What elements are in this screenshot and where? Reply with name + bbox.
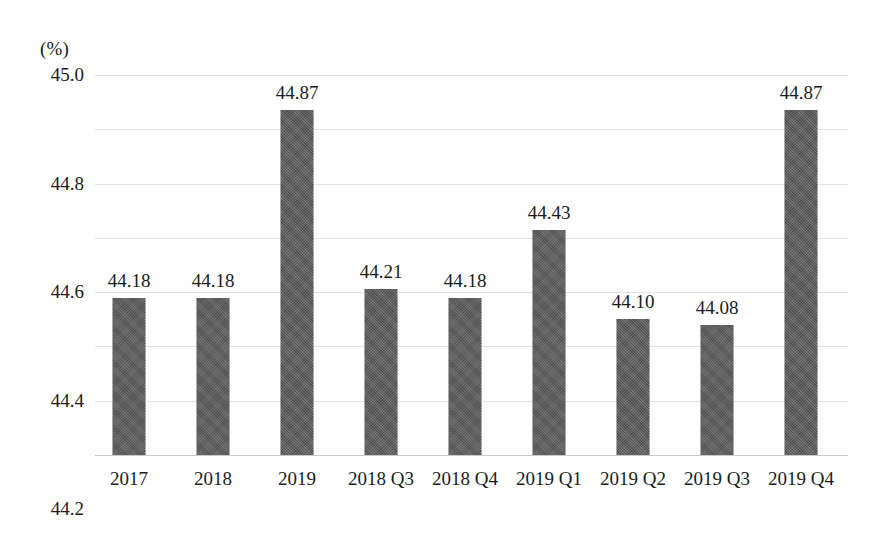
- x-axis-category-label: 2019 Q2: [600, 468, 666, 490]
- y-axis-tick-label: 44.6: [51, 281, 84, 303]
- x-axis-category-label: 2018 Q3: [348, 468, 414, 490]
- bar[interactable]: [701, 325, 734, 455]
- plot-area: 45.044.844.644.444.244.043.843.6 44.1820…: [95, 75, 848, 455]
- bar[interactable]: [113, 298, 146, 455]
- bar[interactable]: [785, 110, 818, 455]
- bar-group[interactable]: 44.212018 Q3: [339, 75, 423, 455]
- bar-value-label: 44.21: [360, 261, 403, 283]
- y-axis-tick-label: 44.2: [51, 498, 84, 520]
- y-axis-tick-label: 44.4: [51, 390, 84, 412]
- x-axis-category-label: 2019 Q3: [684, 468, 750, 490]
- bar-value-label: 44.10: [612, 291, 655, 313]
- y-axis-tick-label: 45.0: [51, 64, 84, 86]
- bar[interactable]: [617, 319, 650, 455]
- bar-value-label: 44.18: [108, 270, 151, 292]
- x-axis-category-label: 2018: [194, 468, 232, 490]
- bar[interactable]: [281, 110, 314, 455]
- x-axis-category-label: 2018 Q4: [432, 468, 498, 490]
- bar-group[interactable]: 44.082019 Q3: [675, 75, 759, 455]
- bar-value-label: 44.18: [192, 270, 235, 292]
- bars-group: 44.18201744.18201844.87201944.212018 Q34…: [95, 75, 848, 455]
- bar[interactable]: [197, 298, 230, 455]
- bar[interactable]: [449, 298, 482, 455]
- bar-value-label: 44.18: [444, 270, 487, 292]
- bar[interactable]: [533, 230, 566, 455]
- bar-value-label: 44.87: [780, 82, 823, 104]
- bar-group[interactable]: 44.432019 Q1: [507, 75, 591, 455]
- x-axis-category-label: 2019: [278, 468, 316, 490]
- bar-group[interactable]: 44.182018 Q4: [423, 75, 507, 455]
- y-axis-unit-label: (%): [40, 38, 69, 60]
- bar-group[interactable]: 44.182017: [87, 75, 171, 455]
- bar-group[interactable]: 44.102019 Q2: [591, 75, 675, 455]
- bar-group[interactable]: 44.872019 Q4: [759, 75, 843, 455]
- bar[interactable]: [365, 289, 398, 455]
- x-axis-category-label: 2017: [110, 468, 148, 490]
- bar-group[interactable]: 44.872019: [255, 75, 339, 455]
- bar-group[interactable]: 44.182018: [171, 75, 255, 455]
- x-axis-category-label: 2019 Q1: [516, 468, 582, 490]
- gridline: 43.6: [95, 455, 848, 456]
- chart-page: (%) 45.044.844.644.444.244.043.843.6 44.…: [0, 0, 887, 533]
- bar-value-label: 44.08: [696, 297, 739, 319]
- bar-value-label: 44.43: [528, 202, 571, 224]
- y-axis-tick-label: 44.8: [51, 173, 84, 195]
- bar-value-label: 44.87: [276, 82, 319, 104]
- x-axis-category-label: 2019 Q4: [768, 468, 834, 490]
